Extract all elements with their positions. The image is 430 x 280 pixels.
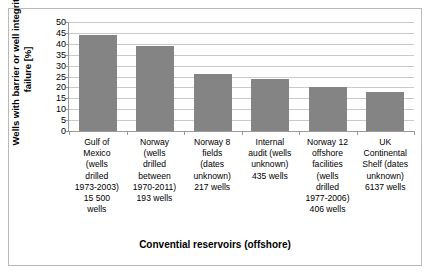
x-tick-mark <box>357 131 358 135</box>
bar <box>309 87 347 131</box>
x-category-label: Norway 8 fields (dates unknown) 217 well… <box>183 137 241 215</box>
chart-figure: Wells with barrier or well integrity fai… <box>0 0 430 280</box>
y-tick-label: 5 <box>61 116 66 125</box>
y-tick-label: 50 <box>56 18 66 27</box>
bar-slot <box>184 22 242 131</box>
x-tick-mark <box>184 131 185 135</box>
x-axis-category-labels: Gulf of Mexico (wells drilled 1973-2003)… <box>68 137 414 215</box>
plot-axes: 05101520253035404550 <box>68 22 414 132</box>
y-tick-label: 10 <box>56 105 66 114</box>
x-category-label: Norway 12 offshore facilities (wells dri… <box>299 137 357 215</box>
bar <box>251 79 289 131</box>
x-axis-title: Convential reservoirs (offshore) <box>0 239 430 250</box>
bar <box>136 46 174 131</box>
bar-slot <box>69 22 127 131</box>
bar-slot <box>299 22 357 131</box>
bar-slot <box>357 22 415 131</box>
bar-series <box>69 22 414 131</box>
x-category-label: Norway (wells drilled between 1970-2011)… <box>126 137 184 215</box>
x-tick-mark <box>414 131 415 135</box>
bar <box>79 35 117 131</box>
x-category-label: Internal audit (wells unknown) 435 wells <box>241 137 299 215</box>
bar <box>366 92 404 131</box>
bar-slot <box>127 22 185 131</box>
y-tick-label: 25 <box>56 72 66 81</box>
y-tick-label: 20 <box>56 83 66 92</box>
x-category-label: UK Continental Shelf (dates unknown) 613… <box>356 137 414 215</box>
x-tick-mark <box>299 131 300 135</box>
y-tick-label: 30 <box>56 61 66 70</box>
y-tick-label: 40 <box>56 39 66 48</box>
y-tick-label: 15 <box>56 94 66 103</box>
y-tick-label: 35 <box>56 50 66 59</box>
y-axis-title: Wells with barrier or well integrity fai… <box>10 0 33 155</box>
x-tick-mark <box>69 131 70 135</box>
bar <box>194 74 232 131</box>
y-tick-label: 0 <box>61 127 66 136</box>
plot-area: 05101520253035404550 <box>68 22 414 132</box>
x-tick-mark <box>242 131 243 135</box>
bar-slot <box>242 22 300 131</box>
y-tick-label: 45 <box>56 28 66 37</box>
x-category-label: Gulf of Mexico (wells drilled 1973-2003)… <box>68 137 126 215</box>
x-tick-mark <box>127 131 128 135</box>
